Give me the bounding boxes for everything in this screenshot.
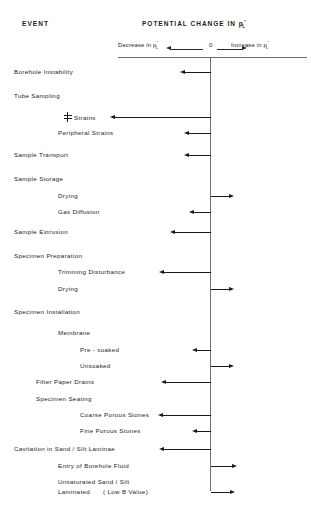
change-arrow-left	[164, 272, 211, 273]
event-label-text: Drying	[58, 285, 78, 292]
pl-prime: '	[267, 40, 268, 46]
event-label-text: Sample Extrusion	[14, 228, 68, 235]
event-label-text: Specimen Preparation	[14, 252, 82, 259]
event-label-text: Specimen Seating	[36, 395, 92, 402]
axis-increase-text: Increase in	[231, 42, 263, 48]
change-arrow-left	[194, 212, 211, 213]
event-label: Unsoaked	[80, 362, 111, 369]
event-label-text: Sample Transport	[14, 151, 68, 158]
event-label-text: Strains	[74, 114, 96, 121]
event-label-text: Borehole Instability	[14, 68, 73, 75]
diagram-canvas: EVENT POTENTIAL CHANGE IN pL' Decrease i…	[0, 0, 311, 505]
change-arrow-left	[163, 415, 211, 416]
event-label-text: Filter Paper Drains	[36, 378, 94, 385]
change-arrow-left	[164, 449, 211, 450]
event-label: Sample Extrusion	[14, 228, 68, 235]
centerline-icon	[63, 113, 72, 121]
event-label: Tube Sampling	[14, 92, 60, 99]
pl-symbol-title: pL'	[239, 20, 247, 27]
event-label-text: Sample Storage	[14, 175, 63, 182]
event-label: Gas Diffusion	[58, 208, 100, 215]
event-label: Drying	[58, 192, 78, 199]
event-label-text: Trimming Disturbance	[58, 268, 125, 275]
event-label-text: Unsaturated Sand / Silt	[58, 478, 130, 485]
change-arrow-right	[211, 466, 233, 467]
change-arrow-left	[189, 155, 211, 156]
event-label: Borehole Instability	[14, 68, 73, 75]
event-label: Sample Transport	[14, 151, 68, 158]
change-arrow-left	[166, 382, 211, 383]
event-label: Laminated( Low B Value)	[58, 488, 148, 495]
change-arrow-left	[197, 350, 211, 351]
event-label-text: Membrane	[58, 329, 90, 336]
event-label-text: Gas Diffusion	[58, 208, 100, 215]
event-label-suffix: ( Low B Value)	[103, 488, 148, 495]
change-arrow-left	[197, 431, 211, 432]
event-label-text: Entry of Borehole Fluid	[58, 462, 129, 469]
event-label-text: Tube Sampling	[14, 92, 60, 99]
event-label: Coarse Porous Stones	[80, 411, 149, 418]
event-label-text: Fine Porous Stones	[80, 427, 141, 434]
pl-symbol-increase: pL'	[263, 42, 270, 48]
change-arrow-right	[211, 492, 231, 493]
event-label: Filter Paper Drains	[36, 378, 94, 385]
change-arrow-left	[189, 133, 211, 134]
zero-axis-line	[210, 57, 211, 491]
event-label: Cavitation in Sand / Silt Laminae	[14, 445, 115, 452]
event-label-text: Coarse Porous Stones	[80, 411, 149, 418]
change-arrow-left	[175, 232, 211, 233]
change-arrow-right	[211, 289, 230, 290]
event-label: Specimen Seating	[36, 395, 92, 402]
event-label: Entry of Borehole Fluid	[58, 462, 129, 469]
event-label: Sample Storage	[14, 175, 63, 182]
arrow-right-icon	[217, 49, 243, 50]
event-label-text: Laminated	[58, 488, 90, 495]
change-arrow-right	[211, 196, 230, 197]
event-label: Fine Porous Stones	[80, 427, 141, 434]
change-arrow-left	[115, 117, 211, 118]
pl-prime: '	[244, 18, 245, 25]
change-arrow-right	[211, 366, 230, 367]
event-label-text: Specimen Installation	[14, 308, 80, 315]
event-label-column: Borehole InstabilityTube Sampling Strain…	[0, 0, 210, 505]
axis-increase-label: Increase in pL'	[231, 42, 270, 48]
event-label: Pre - soaked	[80, 346, 119, 353]
event-label: Peripheral Strains	[58, 129, 113, 136]
event-label: Specimen Preparation	[14, 252, 82, 259]
event-label: Specimen Installation	[14, 308, 80, 315]
change-arrow-left	[185, 72, 211, 73]
event-label: Strains	[63, 113, 96, 121]
event-label: Trimming Disturbance	[58, 268, 125, 275]
event-label-text: Peripheral Strains	[58, 129, 113, 136]
event-label-text: Drying	[58, 192, 78, 199]
event-label: Unsaturated Sand / Silt	[58, 478, 130, 485]
event-label-text: Cavitation in Sand / Silt Laminae	[14, 445, 115, 452]
event-label-text: Unsoaked	[80, 362, 111, 369]
event-label: Membrane	[58, 329, 90, 336]
event-label: Drying	[58, 285, 78, 292]
event-label-text: Pre - soaked	[80, 346, 119, 353]
